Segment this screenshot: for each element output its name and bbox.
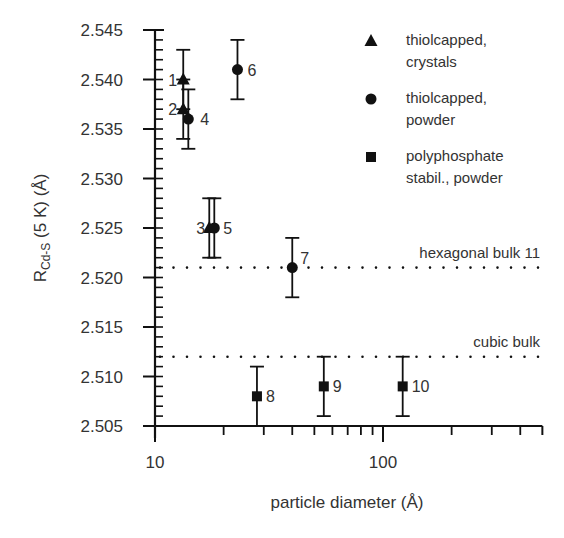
y-tick-label: 2.540 [80,71,123,90]
point-label: 5 [223,220,232,237]
circle-marker-icon [209,223,220,234]
y-tick-label: 2.525 [80,219,123,238]
data-point: 7 [285,238,309,297]
circle-marker-icon [183,114,194,125]
y-axis-label: RCd-S (5 K) (Å) [31,174,53,283]
point-label: 8 [266,388,275,405]
legend-label: thiolcapped, [406,89,487,106]
x-axis: 10100 [146,426,543,472]
y-axis-label-main: R [31,270,50,282]
legend-item: polyphosphatestabil., powder [366,147,504,186]
x-tick-label: 10 [146,453,165,472]
legend-label: powder [406,111,455,128]
point-label: 1 [168,72,177,89]
y-tick-label: 2.530 [80,170,123,189]
data-point: 4 [181,89,209,148]
square-marker-icon [319,381,329,391]
point-label: 4 [200,111,209,128]
y-tick-label: 2.505 [80,417,123,436]
y-axis-label-subscript: Cd-S [39,243,53,270]
square-marker-icon [252,391,262,401]
data-point: 8 [250,367,275,426]
legend-item: thiolcapped,crystals [365,31,487,70]
legend: thiolcapped,crystalsthiolcapped,powderpo… [365,31,504,186]
point-label: 6 [247,62,256,79]
data-point: 6 [230,40,256,99]
legend-label: stabil., powder [406,169,503,186]
reference-line-label: cubic bulk [473,333,540,350]
legend-label: polyphosphate [406,147,504,164]
point-label: 9 [333,378,342,395]
y-tick-label: 2.520 [80,269,123,288]
point-label: 3 [196,220,205,237]
y-tick-label: 2.545 [80,21,123,40]
point-label: 7 [300,250,309,267]
circle-marker-icon [232,64,243,75]
square-marker-icon [366,152,376,162]
circle-marker-icon [366,94,377,105]
data-point: 5 [207,198,232,257]
legend-label: thiolcapped, [406,31,487,48]
reference-line-label: hexagonal bulk 11 [419,244,540,261]
reference-lines: hexagonal bulk 11cubic bulk [160,244,540,357]
point-label: 2 [168,101,177,118]
y-axis-label-rest: (5 K) (Å) [31,174,50,243]
y-tick-label: 2.515 [80,318,123,337]
legend-item: thiolcapped,powder [366,89,487,128]
data-points: 12345678910 [168,40,429,426]
chart: 2.5052.5102.5152.5202.5252.5302.5352.540… [0,0,564,538]
data-point: 9 [317,357,342,416]
y-tick-label: 2.535 [80,120,123,139]
y-axis: 2.5052.5102.5152.5202.5252.5302.5352.540… [80,21,164,438]
point-label: 10 [412,378,430,395]
circle-marker-icon [287,262,298,273]
square-marker-icon [398,381,408,391]
legend-label: crystals [406,53,457,70]
data-point: 10 [396,357,430,416]
x-tick-label: 100 [369,453,397,472]
triangle-marker-icon [365,34,378,46]
y-tick-label: 2.510 [80,368,123,387]
x-axis-label: particle diameter (Å) [270,493,423,512]
